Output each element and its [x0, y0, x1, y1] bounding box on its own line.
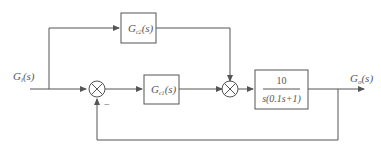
feedforward-branch-line — [49, 28, 119, 89]
plant-numerator: 10 — [277, 75, 287, 86]
controller-label: Gc1(s) — [151, 83, 177, 96]
plant-denominator: s(0.1s+1) — [262, 93, 301, 105]
block-diagram: Gi(s) Gc2(s) Gc1(s) 10 s(0.1s+1) Go(s) − — [0, 0, 381, 152]
feedforward-output-line — [156, 28, 230, 81]
output-label: Go(s) — [350, 72, 373, 86]
input-label: Gi(s) — [13, 70, 35, 84]
feedback-minus-sign: − — [104, 99, 110, 110]
feedback-line — [97, 89, 338, 140]
feedforward-label: Gc2(s) — [128, 22, 154, 35]
